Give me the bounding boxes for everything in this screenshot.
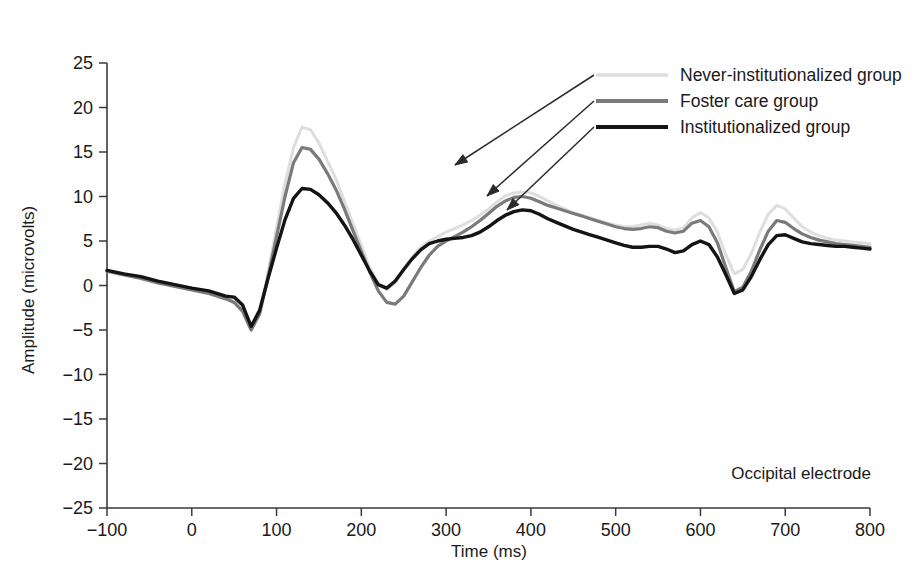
- x-tick-label: 0: [187, 520, 197, 540]
- y-axis-tick-group: −25−20−15−10−50510152025: [62, 53, 107, 518]
- x-tick-label: 300: [431, 520, 461, 540]
- x-axis-title: Time (ms): [451, 542, 527, 561]
- y-axis-title: Amplitude (microvolts): [19, 206, 38, 374]
- x-axis-tick-group: −1000100200300400500600700800: [87, 508, 885, 540]
- y-tick-label: −20: [62, 454, 93, 474]
- legend-label-0: Never-institutionalized group: [680, 65, 902, 85]
- x-tick-label: 800: [855, 520, 885, 540]
- annotation-arrow-1: [487, 101, 594, 196]
- y-tick-label: −15: [62, 409, 93, 429]
- x-tick-label: 500: [601, 520, 631, 540]
- x-tick-label: −100: [87, 520, 128, 540]
- y-tick-label: −5: [72, 320, 93, 340]
- x-tick-label: 700: [770, 520, 800, 540]
- y-tick-label: 0: [83, 276, 93, 296]
- annotation-arrow-group: [455, 75, 594, 210]
- y-tick-label: −10: [62, 365, 93, 385]
- legend-label-1: Foster care group: [680, 91, 818, 111]
- legend-label-2: Institutionalized group: [680, 117, 850, 137]
- y-tick-label: 20: [73, 98, 93, 118]
- y-tick-label: 25: [73, 53, 93, 73]
- x-tick-label: 400: [516, 520, 546, 540]
- legend: Never-institutionalized groupFoster care…: [596, 65, 902, 137]
- electrode-annotation: Occipital electrode: [731, 464, 871, 483]
- x-tick-label: 200: [346, 520, 376, 540]
- erp-waveform-figure: −25−20−15−10−50510152025 −10001002003004…: [0, 0, 913, 581]
- annotation-arrowhead-0: [455, 155, 468, 165]
- y-tick-label: −25: [62, 498, 93, 518]
- y-tick-label: 5: [83, 231, 93, 251]
- series-group: [107, 127, 870, 330]
- x-tick-label: 600: [685, 520, 715, 540]
- y-tick-label: 10: [73, 187, 93, 207]
- chart-canvas: −25−20−15−10−50510152025 −10001002003004…: [0, 0, 913, 581]
- x-tick-label: 100: [262, 520, 292, 540]
- y-tick-label: 15: [73, 142, 93, 162]
